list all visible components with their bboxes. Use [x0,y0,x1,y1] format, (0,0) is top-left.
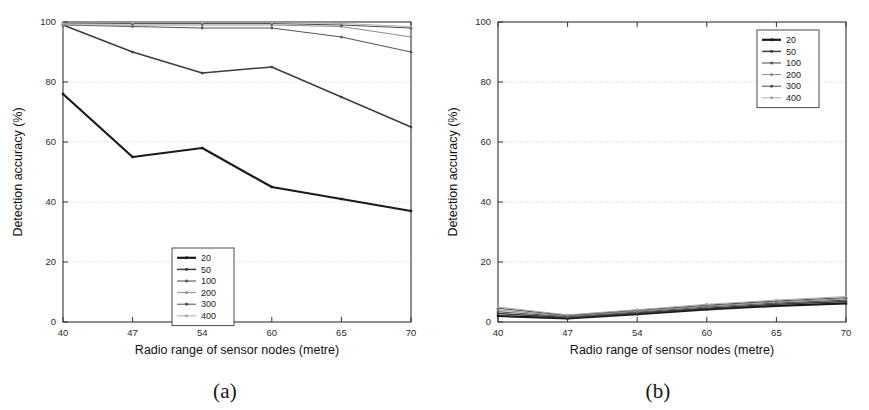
legend-marker-200 [185,291,188,294]
x-tick-label: 70 [406,327,417,338]
y-tick-label: 0 [486,316,491,327]
data-point [775,299,777,301]
legend-marker-300 [185,303,188,306]
legend-marker-50 [770,50,773,53]
data-point [340,36,342,38]
data-point [636,309,638,311]
x-tick-label: 54 [632,327,643,338]
y-tick-label: 20 [45,256,56,267]
data-point [340,22,342,24]
legend-label-300: 300 [786,81,801,91]
data-point [201,27,203,29]
data-point [410,36,412,38]
data-point [271,21,273,23]
figure-container: 020406080100404754606570Radio range of s… [0,0,869,410]
legend-label-400: 400 [786,93,801,103]
data-point [497,315,499,317]
legend-label-200: 200 [786,70,801,80]
series-line-20 [63,94,411,211]
subfigure-b: 020406080100404754606570Radio range of s… [435,0,869,410]
y-tick-label: 100 [475,16,491,27]
data-point [497,306,499,308]
y-tick-label: 80 [480,76,491,87]
subfigure-a: 020406080100404754606570Radio range of s… [0,0,434,410]
legend-marker-20 [185,257,188,260]
data-point [271,27,273,29]
data-point [201,72,203,74]
data-point [410,51,412,53]
legend-marker-100 [770,62,773,65]
x-tick-label: 60 [267,327,278,338]
y-axis-title: Detection accuracy (%) [11,107,25,236]
legend-marker-200 [770,73,773,76]
chart-a: 020406080100404754606570Radio range of s… [0,0,434,370]
legend-marker-20 [770,39,773,42]
legend-label-100: 100 [786,58,801,68]
legend-label-400: 400 [201,311,216,321]
y-tick-label: 80 [45,76,56,87]
data-point [271,66,273,68]
data-point [131,51,133,53]
x-tick-label: 47 [562,327,573,338]
legend-marker-300 [770,85,773,88]
y-tick-label: 60 [480,136,491,147]
legend-label-50: 50 [201,265,211,275]
x-tick-label: 47 [127,327,138,338]
data-point [271,186,273,188]
data-point [131,156,133,158]
legend-marker-400 [770,97,773,100]
y-tick-label: 60 [45,136,56,147]
data-point [566,314,568,316]
x-axis-title: Radio range of sensor nodes (metre) [135,343,339,357]
y-tick-label: 100 [40,16,56,27]
chart-b: 020406080100404754606570Radio range of s… [435,0,869,370]
caption-b: (b) [435,379,869,404]
x-tick-label: 40 [493,327,504,338]
data-point [62,22,64,24]
x-axis-title: Radio range of sensor nodes (metre) [570,343,774,357]
caption-a: (a) [0,379,442,404]
plot-frame [63,22,411,322]
legend-label-200: 200 [201,288,216,298]
data-point [201,147,203,149]
x-tick-label: 65 [771,327,782,338]
y-tick-label: 0 [51,316,56,327]
x-tick-label: 54 [197,327,208,338]
data-point [62,93,64,95]
data-point [410,126,412,128]
legend-label-100: 100 [201,276,216,286]
data-point [845,295,847,297]
data-point [340,198,342,200]
y-tick-label: 40 [45,196,56,207]
legend-label-20: 20 [786,35,796,45]
x-tick-label: 65 [336,327,347,338]
legend-marker-100 [185,280,188,283]
legend-label-20: 20 [201,253,211,263]
data-point [340,96,342,98]
legend: 2050100200300400 [172,248,234,326]
legend-marker-400 [185,315,188,318]
data-point [201,21,203,23]
data-point [410,25,412,27]
x-tick-label: 40 [58,327,69,338]
data-point [706,303,708,305]
x-tick-label: 60 [702,327,713,338]
y-tick-label: 40 [480,196,491,207]
legend-marker-50 [185,268,188,271]
series-line-200 [63,25,411,37]
legend-label-300: 300 [201,299,216,309]
data-point [131,21,133,23]
data-point [410,210,412,212]
y-axis-title: Detection accuracy (%) [446,107,460,236]
legend: 2050100200300400 [757,30,819,108]
x-tick-label: 70 [841,327,852,338]
legend-label-50: 50 [786,47,796,57]
y-tick-label: 20 [480,256,491,267]
